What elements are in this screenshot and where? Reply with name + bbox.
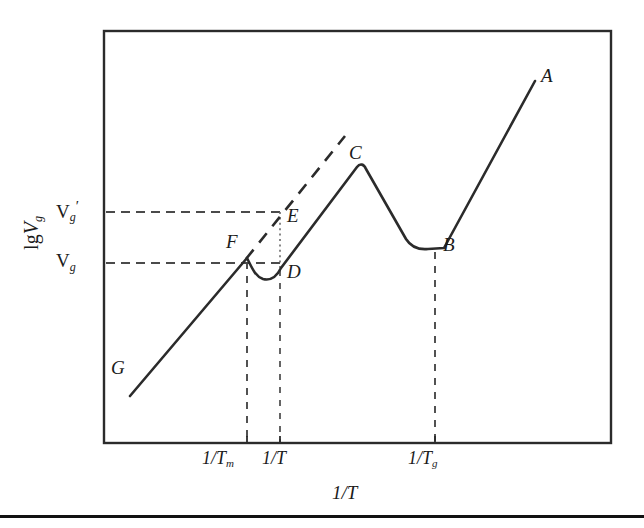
y-tick-vg-sub: g [70,260,76,274]
page-edge-rule [0,515,644,518]
x-tick-label-inv-t: 1/T [262,449,286,467]
x-tick-label-inv-tm: 1/Tm [202,449,234,469]
x-tick-inv-tg-text: 1/T [408,448,432,468]
x-tick-label-inv-tg: 1/Tg [408,449,438,469]
y-tick-vg-prime-prime: ′ [76,198,79,214]
x-axis-title: 1/T [332,483,357,502]
x-tick-inv-t-text: 1/T [262,448,286,468]
curve-point-label-f: F [226,232,238,251]
curve-point-label-a: A [541,66,553,85]
x-tick-inv-tg-sub: g [432,457,438,469]
y-axis-title-prefix: lg [20,234,42,250]
vertical-reference-lines [247,252,435,443]
curve-point-label-g: G [111,358,125,377]
curve-point-label-c: C [349,143,362,162]
curve-point-label-b: B [443,235,455,254]
y-tick-vg-var: V [56,250,70,271]
plot-frame [104,31,611,443]
y-axis-title-var: V [20,222,42,234]
horizontal-reference-lines [106,212,283,263]
y-tick-label-vg: Vg [56,251,76,273]
x-tick-inv-tm-sub: m [226,457,234,469]
main-curve [130,81,535,396]
y-tick-label-vg-prime: Vg′ [56,199,79,223]
dashed-extrapolation-line [246,136,345,259]
figure-container: lgVg Vg′ Vg 1/Tm 1/T 1/Tg 1/T A B C D E … [0,0,644,528]
curve-point-label-d: D [287,262,301,281]
y-axis-title: lgVg [20,216,46,250]
curve-point-label-e: E [287,206,299,225]
y-axis-title-sub: g [31,216,45,222]
x-tick-inv-tm-text: 1/T [202,448,226,468]
y-axis-title-container: lgVg [18,168,48,298]
y-tick-vg-prime-var: V [56,201,70,222]
